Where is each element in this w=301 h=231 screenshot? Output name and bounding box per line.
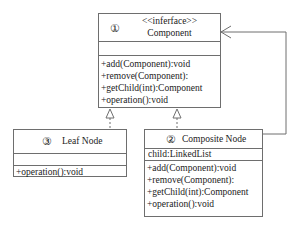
leaf-number: ③	[42, 135, 52, 147]
leaf-realization-arrow-icon	[106, 109, 114, 118]
composite-operations: +add(Component):void +remove(Component):…	[145, 160, 262, 216]
leaf-attributes	[14, 153, 126, 165]
component-op: +operation():void	[101, 94, 168, 106]
composite-number: ②	[166, 133, 176, 145]
component-operations: +add(Component):void +remove(Component):…	[99, 55, 220, 107]
component-op: +remove(Component):	[101, 70, 188, 82]
component-name: Component	[119, 27, 220, 39]
composite-op: +getChild(int):Component	[147, 186, 248, 198]
leaf-operations: +operation():void	[14, 165, 126, 176]
composite-op: +remove(Component):	[147, 174, 234, 186]
association-line	[221, 32, 286, 134]
composite-op: +add(Component):void	[147, 162, 236, 174]
composite-header: ② Composite Node	[145, 130, 262, 148]
component-attributes	[99, 41, 220, 55]
composite-attr: child:LinkedList	[148, 148, 211, 160]
composite-op: +operation():void	[147, 198, 214, 210]
component-op: +add(Component):void	[101, 58, 190, 70]
component-header: ① <<inferface>> Component	[99, 14, 220, 41]
composite-class[interactable]: ② Composite Node child:LinkedList +add(C…	[144, 129, 263, 217]
leaf-name: Leaf Node	[62, 135, 102, 147]
leaf-class[interactable]: ③ Leaf Node +operation():void	[13, 129, 127, 177]
component-op: +getChild(int):Component	[101, 82, 202, 94]
composite-name: Composite Node	[182, 133, 246, 145]
component-class[interactable]: ① <<inferface>> Component +add(Component…	[98, 13, 221, 108]
leaf-header: ③ Leaf Node	[14, 130, 126, 153]
component-stereotype: <<inferface>>	[119, 15, 220, 27]
leaf-op: +operation():void	[16, 166, 83, 178]
composite-attributes: child:LinkedList	[145, 148, 262, 160]
composite-realization-arrow-icon	[173, 109, 181, 118]
